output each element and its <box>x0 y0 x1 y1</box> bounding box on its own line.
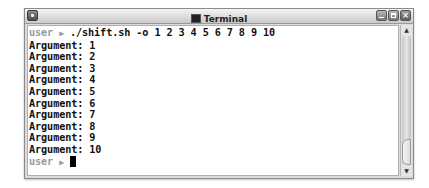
output-line: Argument: 3 <box>29 63 398 75</box>
output-line: Argument: 7 <box>29 109 398 121</box>
vertical-scrollbar[interactable]: ▲ ▼ <box>400 25 412 176</box>
output-line: Argument: 5 <box>29 86 398 98</box>
terminal-window: Terminal × user ▶ ./shift.sh -o 1 2 3 4 … <box>24 8 414 179</box>
output-line: Argument: 6 <box>29 98 398 110</box>
terminal-output[interactable]: user ▶ ./shift.sh -o 1 2 3 4 5 6 7 8 9 1… <box>27 25 399 176</box>
minimize-button[interactable] <box>376 10 387 21</box>
title-bar[interactable]: Terminal × <box>25 9 413 24</box>
output-line: Argument: 9 <box>29 132 398 144</box>
prompt-user: user <box>29 156 53 167</box>
window-controls: × <box>376 10 411 21</box>
command-line: user ▶ ./shift.sh -o 1 2 3 4 5 6 7 8 9 1… <box>29 27 398 40</box>
scroll-track[interactable] <box>402 36 411 165</box>
prompt-arrow-icon: ▶ <box>59 158 64 167</box>
text-cursor <box>70 156 76 167</box>
scroll-thumb[interactable] <box>402 139 411 165</box>
close-icon: × <box>402 11 409 20</box>
prompt-user: user <box>29 27 53 38</box>
output-line: Argument: 8 <box>29 121 398 133</box>
output-line: Argument: 1 <box>29 40 398 52</box>
window-title: Terminal <box>204 14 248 24</box>
maximize-button[interactable] <box>388 10 399 21</box>
scroll-up-arrow-icon[interactable]: ▲ <box>401 25 412 35</box>
prompt-line: user ▶ <box>29 156 398 169</box>
terminal-icon <box>191 14 201 23</box>
output-line: Argument: 2 <box>29 51 398 63</box>
command-text: ./shift.sh -o 1 2 3 4 5 6 7 8 9 10 <box>64 27 275 38</box>
scroll-down-arrow-icon[interactable]: ▼ <box>401 166 412 176</box>
output-line: Argument: 4 <box>29 74 398 86</box>
close-button[interactable]: × <box>400 10 411 21</box>
output-line: Argument: 10 <box>29 144 398 156</box>
title-area: Terminal <box>25 9 413 23</box>
